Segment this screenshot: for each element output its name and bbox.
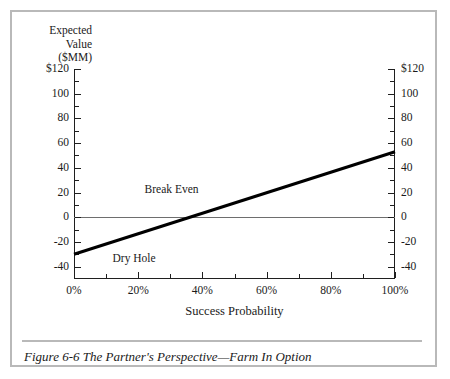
y-tick-label-right-20: 20 [401,187,413,199]
y-tick-label-right--40: -40 [401,261,416,273]
y-tick-label-right-60: 60 [401,137,413,149]
y-tick-label-left--40: -40 [54,261,69,273]
y-tick-label-left--20: -20 [54,236,69,248]
series-line-expected-value [74,152,395,255]
x-tick-label-100: 100% [382,285,409,297]
annotation-dry-hole: Dry Hole [113,253,156,265]
y-tick-label-left-0: 0 [63,211,69,223]
x-tick-100 [395,272,396,278]
y-tick-label-right--20: -20 [401,236,416,248]
y-tick-label-left-100: 100 [52,88,69,100]
y-tick-label-right-0: 0 [401,211,407,223]
y-tick-label-right-120: $120 [401,63,424,75]
figure-caption: Figure 6-6 The Partner's Perspective—Far… [24,349,429,365]
x-tick-label-80: 80% [320,285,341,297]
y-tick-label-left-20: 20 [58,187,70,199]
y-axis-title-line-1: Expected [14,24,92,38]
y-tick-label-left-120: $120 [46,63,69,75]
annotation-break-even: Break Even [145,184,199,196]
y-tick-label-right-40: 40 [401,162,413,174]
x-axis-title: Success Probability [74,304,395,319]
y-tick-label-right-80: 80 [401,112,413,124]
y-tick-label-left-60: 60 [58,137,70,149]
y-tick-label-left-40: 40 [58,162,70,174]
y-axis-title-line-2: Value [14,38,92,52]
x-tick-label-40: 40% [192,285,213,297]
series-layer [74,69,395,279]
caption-rule [22,340,422,342]
x-tick-label-20: 20% [128,285,149,297]
chart-area: Expected Value ($MM) $120100806040200-20… [12,12,439,332]
y-tick-label-right-100: 100 [401,88,418,100]
y-tick-label-left-80: 80 [58,112,70,124]
x-tick-label-0: 0% [66,285,81,297]
x-tick-label-60: 60% [256,285,277,297]
y-axis-title: Expected Value ($MM) [14,24,92,65]
figure-frame: Expected Value ($MM) $120100806040200-20… [10,10,437,367]
plot-area: $120100806040200-20-40 $120100806040200-… [74,69,395,279]
